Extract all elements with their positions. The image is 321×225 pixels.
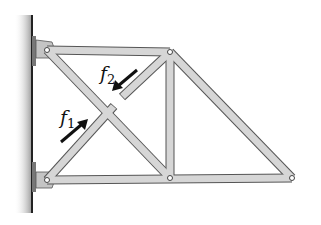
- pin-b: [45, 178, 50, 183]
- truss-figure: f2 f1: [0, 0, 321, 225]
- f2-label: f2: [98, 62, 115, 87]
- wall: [14, 15, 32, 213]
- f1-label: f1: [58, 106, 75, 131]
- pin-d: [168, 176, 173, 181]
- pin-a: [45, 48, 50, 53]
- pin-e: [290, 176, 295, 181]
- pin-c: [168, 50, 173, 55]
- truss-members: [47, 50, 292, 180]
